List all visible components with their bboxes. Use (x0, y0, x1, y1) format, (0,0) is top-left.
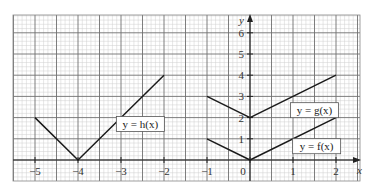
y-tick-label: 6 (239, 27, 245, 39)
x-tick-label: −1 (201, 165, 213, 177)
x-tick-label: 0 (240, 165, 246, 177)
x-tick-label: −3 (115, 165, 127, 177)
y-tick-label: 3 (239, 90, 245, 102)
minor-grid (13, 15, 360, 181)
function-label: y = g(x) (297, 104, 333, 117)
y-tick-label: 1 (239, 133, 245, 145)
x-tick-label: −4 (72, 165, 84, 177)
function-label: y = f(x) (300, 140, 334, 153)
x-axis-label: x (356, 164, 362, 176)
y-axis-label: y (238, 14, 244, 26)
x-tick-label: 1 (290, 165, 296, 177)
function-label: y = h(x) (123, 118, 159, 131)
y-tick-label: 5 (239, 48, 245, 60)
x-tick-label: −2 (158, 165, 170, 177)
graph-figure: xy −5−4−3−2−1012123456 y = h(x)y = g(x)y… (0, 0, 365, 189)
x-tick-label: 2 (333, 165, 339, 177)
y-tick-label: 4 (239, 69, 245, 81)
tick-labels: −5−4−3−2−1012123456 (29, 27, 339, 177)
x-tick-label: −5 (29, 165, 41, 177)
